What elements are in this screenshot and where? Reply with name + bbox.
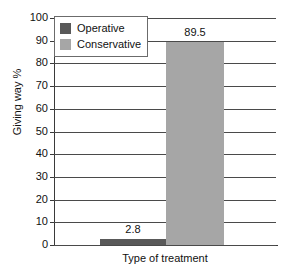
y-axis-tick bbox=[50, 245, 54, 246]
legend-item-operative: Operative bbox=[60, 20, 141, 36]
gridline bbox=[54, 200, 276, 201]
bar-label-conservative: 89.5 bbox=[158, 27, 232, 38]
y-axis-tick-label: 0 bbox=[14, 239, 48, 250]
y-axis-tick bbox=[50, 177, 54, 178]
y-axis-tick-label: 20 bbox=[14, 194, 48, 205]
gridline bbox=[54, 177, 276, 178]
y-axis-tick bbox=[50, 109, 54, 110]
y-axis-tick-label: 100 bbox=[14, 12, 48, 23]
y-axis-tick bbox=[50, 154, 54, 155]
legend-item-conservative: Conservative bbox=[60, 36, 141, 52]
y-axis-tick-label: 40 bbox=[14, 148, 48, 159]
legend-label-operative: Operative bbox=[77, 23, 125, 34]
y-axis-tick-label: 80 bbox=[14, 57, 48, 68]
bar-label-operative: 2.8 bbox=[100, 224, 166, 235]
gridline bbox=[54, 132, 276, 133]
bar-operative bbox=[100, 239, 166, 245]
y-axis-tick-labels: 1009080706050403020100 bbox=[14, 18, 48, 245]
y-axis-tick bbox=[50, 132, 54, 133]
bar-chart: Giving way % 1009080706050403020100 2.8 … bbox=[0, 0, 287, 274]
y-axis-tick bbox=[50, 63, 54, 64]
y-axis-tick-label: 70 bbox=[14, 80, 48, 91]
gridline bbox=[54, 109, 276, 110]
y-axis-tick-label: 10 bbox=[14, 216, 48, 227]
y-axis-tick bbox=[50, 222, 54, 223]
x-axis-title: Type of treatment bbox=[54, 252, 276, 264]
y-axis-tick bbox=[50, 200, 54, 201]
bar-conservative bbox=[166, 42, 224, 245]
legend: Operative Conservative bbox=[54, 16, 148, 57]
legend-swatch-conservative-icon bbox=[60, 39, 71, 50]
gridline bbox=[54, 63, 276, 64]
y-axis-tick-label: 30 bbox=[14, 171, 48, 182]
gridline bbox=[54, 154, 276, 155]
plot-area: 2.8 89.5 Operative Conservative bbox=[54, 18, 276, 245]
gridline bbox=[54, 86, 276, 87]
legend-label-conservative: Conservative bbox=[77, 39, 141, 50]
y-axis-tick-label: 50 bbox=[14, 126, 48, 137]
y-axis-tick-label: 90 bbox=[14, 35, 48, 46]
legend-swatch-operative-icon bbox=[60, 23, 71, 34]
y-axis-tick bbox=[50, 86, 54, 87]
y-axis-tick-label: 60 bbox=[14, 103, 48, 114]
gridline bbox=[54, 245, 276, 246]
